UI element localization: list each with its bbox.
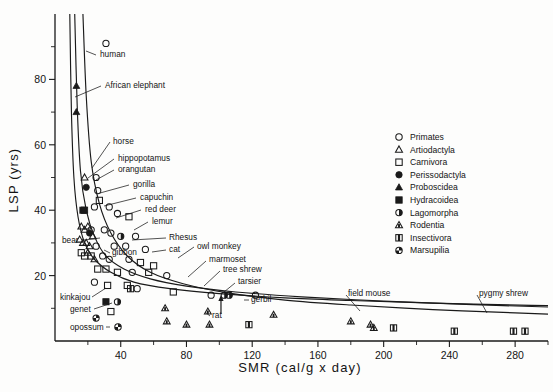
annotation-cat: cat xyxy=(169,244,181,254)
annotation-marmoset: marmoset xyxy=(209,254,247,264)
y-axis-label: LSP (yrs) xyxy=(6,148,21,213)
annotation-gerbil: gerbil xyxy=(251,294,271,304)
annotation-Rhesus: Rhesus xyxy=(169,232,197,242)
y-tick-label-60: 60 xyxy=(34,139,46,151)
annotation-gorilla: gorilla xyxy=(133,179,156,189)
annotation-field-mouse: field mouse xyxy=(348,288,391,298)
annotation-capuchin: capuchin xyxy=(140,192,174,202)
x-tick-label-280: 280 xyxy=(506,349,524,361)
legend-marker-perissodactyla xyxy=(396,172,402,178)
legend-label-marsupilia: Marsupilia xyxy=(410,245,449,255)
scatter-plot-figure: humanAfrican elephanthorsehippopotamusor… xyxy=(0,0,553,392)
data-point-5 xyxy=(83,184,89,190)
legend-label-hydracoidea: Hydracoidea xyxy=(410,195,458,205)
chart-root: humanAfrican elephanthorsehippopotamusor… xyxy=(0,0,553,392)
legend-marker-marsupilia xyxy=(396,247,402,253)
annotation-African-elephant: African elephant xyxy=(105,80,166,90)
annotation-bear: bear xyxy=(62,235,79,245)
legend-label-rodentia: Rodentia xyxy=(410,220,445,230)
annotation-lemur: lemur xyxy=(152,216,173,226)
legend-label-carnivora: Carnivora xyxy=(410,157,447,167)
annotation-genet: genet xyxy=(70,304,91,314)
legend-label-artiodactyla: Artiodactyla xyxy=(410,145,455,155)
annotation-orangutan: orangutan xyxy=(118,164,156,174)
annotation-owl-monkey: owl monkey xyxy=(197,241,242,251)
x-axis-label: SMR (cal/g x day) xyxy=(238,360,362,375)
legend-label-perissodactyla: Perissodactyla xyxy=(410,170,466,180)
x-tick-label-40: 40 xyxy=(115,349,127,361)
annotation-human: human xyxy=(100,49,126,59)
annotation-red-deer: red deer xyxy=(145,204,176,214)
x-tick-label-200: 200 xyxy=(375,349,393,361)
legend-label-primates: Primates xyxy=(410,132,444,142)
annotation-tarsier: tarsier xyxy=(238,276,261,286)
annotation-tree-shrew: tree shrew xyxy=(223,264,263,274)
y-tick-label-80: 80 xyxy=(34,73,46,85)
annotation-kinkajou: kinkajou xyxy=(60,292,91,302)
annotation-hippopotamus: hippopotamus xyxy=(118,153,170,163)
data-point-9 xyxy=(81,207,87,213)
x-tick-label-240: 240 xyxy=(441,349,459,361)
y-tick-label-40: 40 xyxy=(34,204,46,216)
annotation-horse: horse xyxy=(113,136,134,146)
annotation-gibbon: gibbon xyxy=(112,247,137,257)
y-tick-label-20: 20 xyxy=(34,270,46,282)
legend-marker-hydracoidea xyxy=(396,197,402,203)
annotation-opossum: opossum xyxy=(70,322,104,332)
legend-label-proboscidea: Proboscidea xyxy=(410,182,458,192)
annotation-pygmy-shrew: pygmy shrew xyxy=(479,288,529,298)
legend-label-insectivora: Insectivora xyxy=(410,233,452,243)
legend-label-lagomorpha: Lagomorpha xyxy=(410,208,458,218)
x-tick-label-80: 80 xyxy=(181,349,193,361)
figure-background xyxy=(0,0,553,392)
opossum-inline-marker xyxy=(115,324,121,330)
